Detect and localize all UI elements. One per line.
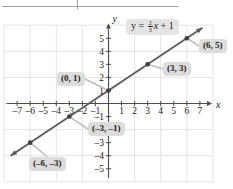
y-tick-label: 3 bbox=[99, 60, 104, 70]
x-tick-label: 7 bbox=[197, 106, 202, 116]
y-tick-label: 2 bbox=[99, 73, 104, 83]
point-callout: (0, 1) bbox=[57, 72, 85, 86]
data-point-marker bbox=[145, 62, 150, 67]
data-point-marker bbox=[106, 88, 111, 93]
graph-figure: –7–6–5–4–3–2–11234567–5–4–3–2–112345 xy … bbox=[0, 0, 233, 189]
y-tick-label: –1 bbox=[94, 112, 105, 122]
x-tick-label: –5 bbox=[38, 106, 49, 116]
equation-label: y = 23x + 1 bbox=[126, 19, 179, 35]
data-point-marker bbox=[67, 114, 72, 119]
x-tick-label: 1 bbox=[119, 106, 124, 116]
y-tick-label: –3 bbox=[94, 138, 105, 148]
equation-slope-numerator: 2 bbox=[148, 20, 153, 27]
data-point-marker bbox=[185, 36, 190, 41]
equation-slope-fraction: 23 bbox=[148, 20, 153, 33]
point-callout: (3, 3) bbox=[163, 62, 191, 76]
x-tick-label: –6 bbox=[24, 106, 35, 116]
x-tick-label: 4 bbox=[158, 106, 163, 116]
data-point-marker bbox=[28, 140, 33, 145]
point-callout: (6, 5) bbox=[199, 39, 227, 53]
point-callout: (–3, –1) bbox=[88, 122, 125, 136]
equation-slope-denominator: 3 bbox=[148, 27, 153, 33]
x-tick-label: –7 bbox=[11, 106, 22, 116]
x-tick-label: –4 bbox=[51, 106, 62, 116]
point-callout: (–6, –3) bbox=[29, 157, 66, 171]
y-tick-label: 4 bbox=[99, 47, 104, 57]
x-tick-label: 5 bbox=[171, 106, 176, 116]
y-axis-label: y bbox=[112, 13, 118, 24]
x-axis-label: x bbox=[215, 99, 221, 110]
y-tick-label: 5 bbox=[99, 34, 104, 44]
x-tick-label: 2 bbox=[132, 106, 137, 116]
callout-leader-lines bbox=[30, 38, 199, 157]
x-tick-label: 6 bbox=[184, 106, 189, 116]
x-tick-label: 3 bbox=[145, 106, 150, 116]
equation-intercept: 1 bbox=[169, 20, 174, 31]
plotted-line bbox=[11, 28, 203, 156]
y-tick-label: –4 bbox=[94, 151, 105, 161]
y-tick-label: –5 bbox=[94, 164, 105, 174]
axes bbox=[7, 23, 212, 177]
